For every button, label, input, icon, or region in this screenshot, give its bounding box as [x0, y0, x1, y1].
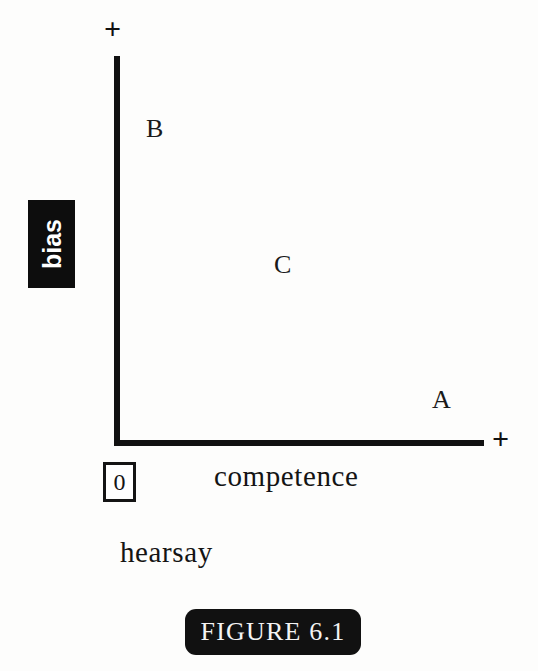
figure-canvas: + + B C A bias 0 competence hearsay FIGU… [0, 0, 538, 671]
region-label-b: B [146, 116, 164, 142]
origin-marker-box: 0 [103, 462, 136, 502]
y-axis-title-box: bias [28, 200, 75, 288]
x-axis-title-label: competence [214, 462, 358, 491]
x-axis-line [114, 440, 484, 446]
y-axis-title-label: bias [39, 219, 64, 269]
region-label-a: A [432, 387, 451, 413]
figure-caption-pill: FIGURE 6.1 [185, 609, 361, 655]
hearsay-note-label: hearsay [120, 538, 213, 567]
y-axis-line [114, 56, 120, 446]
origin-label: 0 [106, 470, 133, 494]
figure-caption-label: FIGURE 6.1 [185, 619, 361, 645]
x-axis-plus-marker: + [492, 424, 509, 454]
y-axis-plus-marker: + [104, 14, 121, 44]
region-label-c: C [274, 252, 292, 278]
